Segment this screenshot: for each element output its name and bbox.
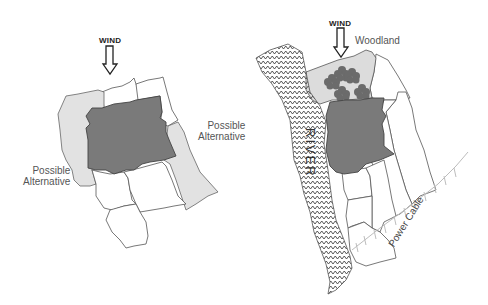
river-label: RIVER [303, 128, 318, 178]
wind-label: WIND [99, 36, 121, 45]
site-diagrams [0, 0, 488, 305]
possible-alternative-right-label: Possible Alternative [198, 120, 245, 142]
wind-arrow-icon [334, 28, 348, 57]
label-line: Alternative [23, 176, 70, 187]
right-map [256, 28, 468, 294]
woodland-label: Woodland [355, 35, 400, 46]
label-line: Possible [23, 165, 70, 176]
parcel-lower-c [346, 196, 372, 228]
label-line: Alternative [198, 131, 245, 142]
left-map [58, 46, 218, 248]
possible-alternative-left-label: Possible Alternative [23, 165, 70, 187]
label-line: Possible [198, 120, 245, 131]
wind-label: WIND [329, 19, 351, 28]
wind-arrow-icon [103, 46, 117, 74]
